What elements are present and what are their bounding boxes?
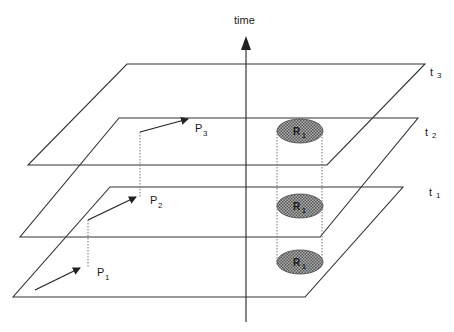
svg-text:1: 1 bbox=[105, 273, 110, 282]
plane-label-t3: t 3 bbox=[430, 66, 442, 80]
plane-t1 bbox=[13, 187, 403, 297]
trajectory-trace bbox=[88, 132, 140, 268]
svg-text:1: 1 bbox=[302, 132, 306, 139]
svg-text:1: 1 bbox=[302, 207, 306, 214]
plane-label-t2: t 2 bbox=[425, 126, 437, 140]
svg-text:3: 3 bbox=[203, 129, 208, 138]
svg-text:2: 2 bbox=[158, 201, 163, 210]
svg-text:R: R bbox=[293, 201, 301, 212]
point-label-p1: P 1 bbox=[97, 266, 110, 282]
plane-t2 bbox=[20, 118, 418, 237]
axis-arrow-icon bbox=[241, 36, 251, 50]
svg-text:P: P bbox=[150, 194, 157, 206]
spatiotemporal-diagram: R 1 R 1 R 1 P 1 P 2 P 3 t 3 t 2 bbox=[0, 0, 454, 332]
svg-text:R: R bbox=[293, 126, 301, 137]
svg-text:t: t bbox=[430, 66, 433, 78]
svg-text:2: 2 bbox=[432, 131, 437, 140]
svg-text:P: P bbox=[195, 122, 202, 134]
trajectory bbox=[35, 119, 188, 290]
region-r1-t1: R 1 bbox=[277, 194, 323, 218]
time-axis bbox=[241, 36, 251, 322]
plane-label-t1: t 1 bbox=[429, 186, 441, 200]
svg-text:R: R bbox=[293, 257, 301, 268]
plane-t3 bbox=[28, 64, 425, 165]
svg-text:t: t bbox=[429, 186, 432, 198]
svg-text:P: P bbox=[97, 266, 104, 278]
svg-text:3: 3 bbox=[437, 71, 442, 80]
svg-text:1: 1 bbox=[302, 263, 306, 270]
region-r1-t2: R 1 bbox=[277, 119, 323, 143]
time-axis-label: time bbox=[234, 14, 255, 26]
svg-text:t: t bbox=[425, 126, 428, 138]
region-r1-t0: R 1 bbox=[277, 250, 323, 274]
svg-text:1: 1 bbox=[436, 191, 441, 200]
point-label-p2: P 2 bbox=[150, 194, 163, 210]
point-label-p3: P 3 bbox=[195, 122, 208, 138]
